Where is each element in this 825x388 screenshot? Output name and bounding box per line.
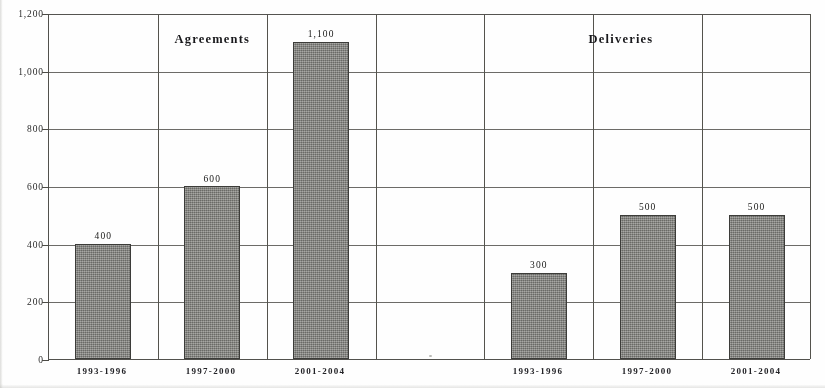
y-tick-mark [42, 245, 49, 246]
y-tick-label: 1,000 [4, 67, 44, 77]
y-tick-mark [42, 302, 49, 303]
bar-value-label: 400 [95, 231, 113, 241]
bar-chart: 1,200 1,000 800 600 400 200 0 [0, 0, 825, 388]
group-title-agreements: Agreements [174, 32, 250, 47]
bar-agreements-1993-1996 [75, 244, 131, 359]
gridline-800 [49, 129, 810, 130]
scan-edge [0, 384, 825, 388]
category-separator [702, 14, 703, 359]
y-tick-mark [42, 72, 49, 73]
category-separator [376, 14, 377, 359]
bar-agreements-2001-2004 [293, 42, 349, 359]
bar-value-label: 500 [748, 202, 766, 212]
y-tick-label: 400 [4, 240, 44, 250]
bar-deliveries-1993-1996 [511, 273, 567, 360]
gridline-1000 [49, 72, 810, 73]
x-category-label: 1993-1996 [77, 366, 128, 376]
scan-edge [0, 0, 3, 388]
gridline-200 [49, 302, 810, 303]
bar-deliveries-1997-2000 [620, 215, 676, 359]
category-separator [484, 14, 485, 359]
category-separator [593, 14, 594, 359]
bar-value-label: 1,100 [308, 29, 335, 39]
y-tick-mark [42, 360, 49, 361]
y-tick-mark [42, 187, 49, 188]
bar-value-label: 300 [530, 260, 548, 270]
gridline-1200 [49, 14, 810, 15]
y-axis: 1,200 1,000 800 600 400 200 0 [0, 0, 44, 388]
x-category-label: 1997-2000 [186, 366, 237, 376]
y-tick-mark [42, 129, 49, 130]
y-tick-label: 800 [4, 124, 44, 134]
y-tick-label: 600 [4, 182, 44, 192]
y-tick-label: 1,200 [4, 9, 44, 19]
y-tick-label: 200 [4, 297, 44, 307]
bar-value-label: 600 [204, 174, 222, 184]
bar-agreements-1997-2000 [184, 186, 240, 359]
category-separator [158, 14, 159, 359]
scan-artifact [429, 355, 432, 357]
x-category-label: 1997-2000 [622, 366, 673, 376]
x-category-label: 1993-1996 [513, 366, 564, 376]
gridline-400 [49, 245, 810, 246]
x-category-label: 2001-2004 [731, 366, 782, 376]
bar-deliveries-2001-2004 [729, 215, 785, 359]
bar-value-label: 500 [639, 202, 657, 212]
category-separator [267, 14, 268, 359]
x-category-label: 2001-2004 [295, 366, 346, 376]
y-tick-mark [42, 14, 49, 15]
gridline-600 [49, 187, 810, 188]
group-title-deliveries: Deliveries [589, 32, 654, 47]
plot-right-edge [810, 14, 811, 359]
y-tick-label: 0 [4, 355, 44, 365]
plot-area: 400 600 1,100 300 500 500 Agreements Del… [48, 14, 810, 360]
